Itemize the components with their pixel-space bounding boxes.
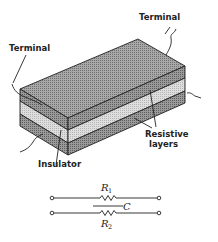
terminal-wire-top [166, 29, 176, 55]
resistor-r2 [100, 211, 116, 216]
callout-terminal-left [13, 55, 26, 83]
circuit-labels: R 1 C R 2 [100, 182, 131, 231]
label-terminal-left: Terminal [9, 43, 50, 53]
label-terminal-top: Terminal [139, 12, 180, 22]
callout-terminal-top [165, 27, 170, 34]
resistor-r1 [100, 196, 116, 201]
terminal-wire-right [187, 93, 201, 98]
label-layers: layers [149, 139, 178, 149]
terminal-node-top-left [50, 196, 54, 200]
label-resistive: Resistive [145, 129, 189, 139]
terminal-node-bottom-right [157, 211, 161, 215]
terminal-node-top-right [157, 196, 161, 200]
rc-component-diagram: Terminal Terminal Resistive layers Insul… [0, 0, 218, 242]
label-r2-subscript: 2 [108, 223, 112, 231]
terminal-node-bottom-left [50, 211, 54, 215]
label-insulator: Insulator [38, 159, 82, 169]
label-r1-subscript: 1 [108, 187, 112, 195]
label-c: C [123, 201, 131, 212]
equivalent-circuit [50, 196, 161, 216]
